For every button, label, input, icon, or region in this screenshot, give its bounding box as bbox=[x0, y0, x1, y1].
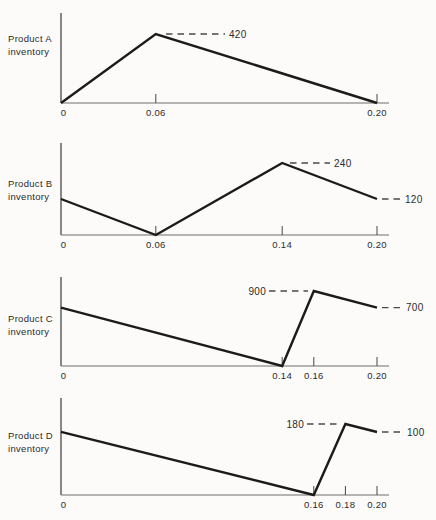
x-tick-label: 0.16 bbox=[304, 370, 324, 381]
x-tick-label: 0.20 bbox=[367, 499, 387, 510]
x-tick-label: 0.16 bbox=[304, 499, 324, 510]
inventory-line bbox=[61, 34, 377, 103]
chart-a: 00.060.20420 bbox=[61, 13, 389, 118]
inventory-line bbox=[61, 163, 377, 235]
x-tick-label: 0 bbox=[61, 499, 67, 510]
x-tick-label: 0.20 bbox=[367, 239, 387, 250]
value-label: 420 bbox=[229, 29, 247, 40]
value-label: 900 bbox=[248, 286, 266, 297]
inventory-line bbox=[61, 424, 377, 495]
x-tick-label: 0.14 bbox=[272, 239, 292, 250]
x-tick-label: 0.20 bbox=[367, 370, 387, 381]
x-tick-label: 0.06 bbox=[146, 107, 166, 118]
x-tick-label: 0.14 bbox=[272, 370, 292, 381]
x-tick-label: 0 bbox=[61, 370, 67, 381]
x-tick-label: 0 bbox=[61, 107, 67, 118]
charts-canvas: 00.060.2042000.060.140.2024012000.140.16… bbox=[0, 0, 436, 520]
value-label: 100 bbox=[407, 427, 425, 438]
x-tick-label: 0 bbox=[61, 239, 67, 250]
chart-c: 00.140.160.20900700 bbox=[61, 277, 424, 381]
inventory-charts-figure: Product A inventory Product B inventory … bbox=[0, 0, 436, 520]
value-label: 700 bbox=[406, 302, 424, 313]
value-label: 180 bbox=[286, 419, 304, 430]
chart-d: 00.160.180.20180100 bbox=[61, 398, 425, 510]
x-tick-label: 0.20 bbox=[367, 107, 387, 118]
value-label: 240 bbox=[334, 158, 352, 169]
inventory-line bbox=[61, 291, 377, 366]
value-label: 120 bbox=[405, 194, 423, 205]
chart-b: 00.060.140.20240120 bbox=[61, 143, 423, 250]
x-tick-label: 0.18 bbox=[336, 499, 356, 510]
x-tick-label: 0.06 bbox=[146, 239, 166, 250]
